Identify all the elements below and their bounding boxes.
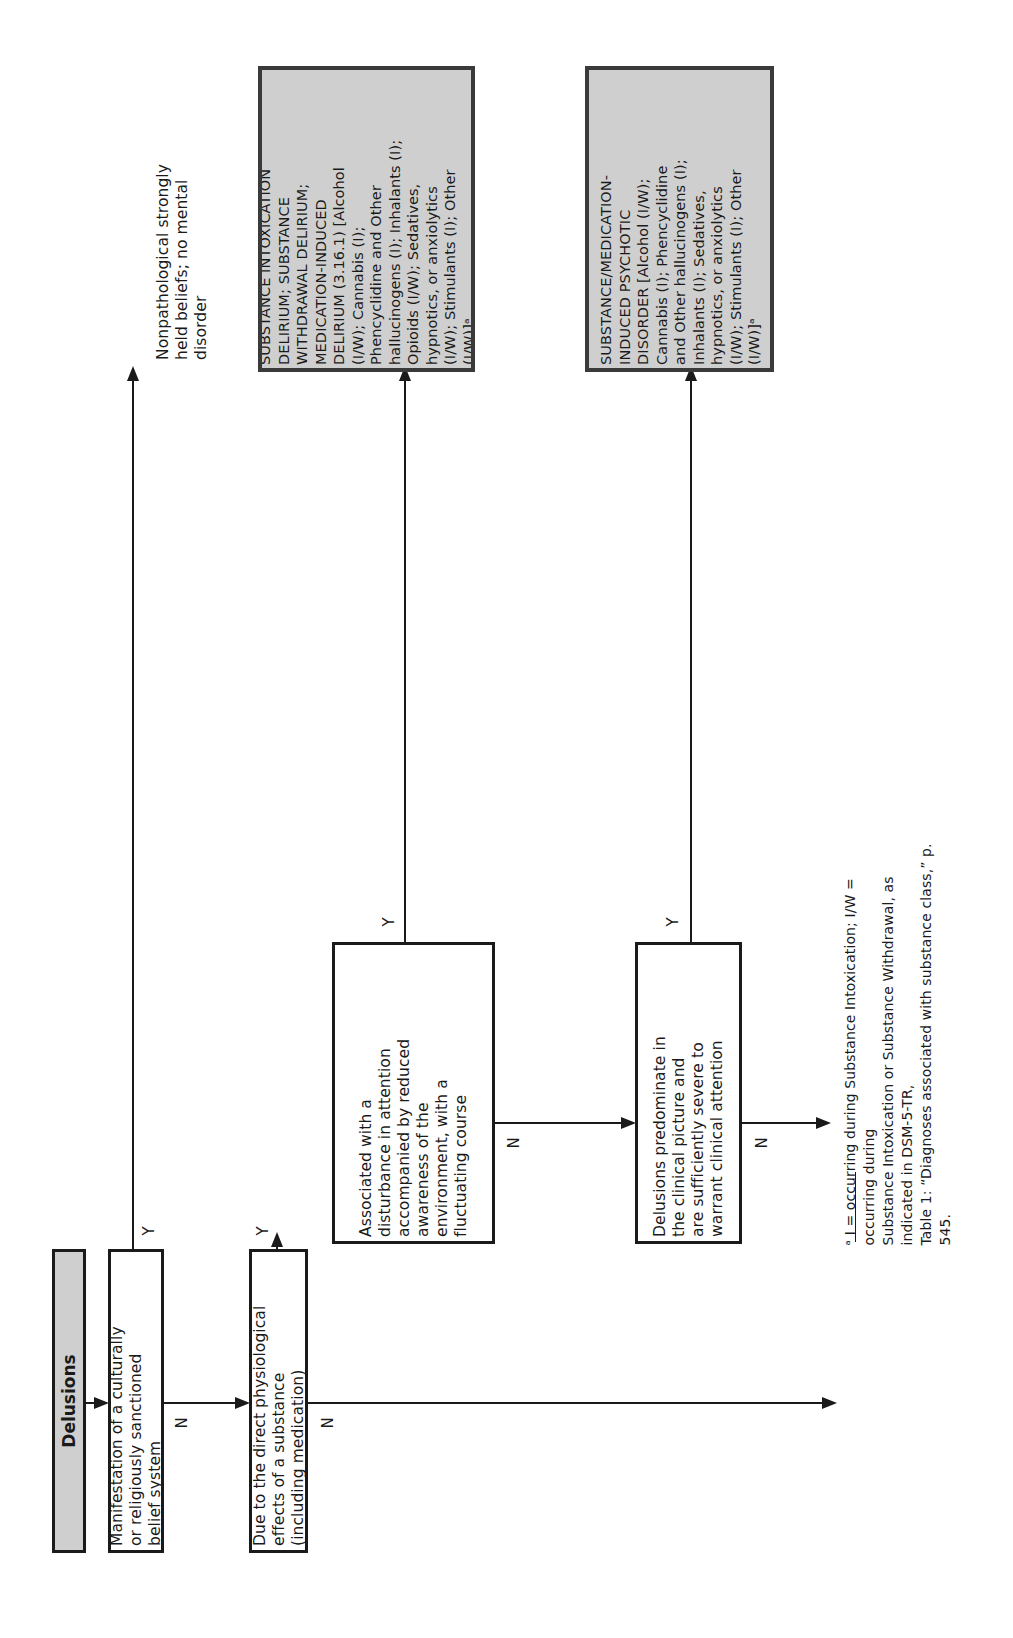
connector-cultural-yes (132, 376, 134, 1249)
connector-predominate-no (742, 1122, 822, 1124)
connector-cultural-no (164, 1402, 242, 1404)
footnote: ᵃ I = occurring during Substance Intoxic… (862, 820, 934, 1245)
start-node-delusions: Delusions (52, 1249, 86, 1553)
outcome-nonpathological-text: Nonpathological strongly held beliefs; n… (154, 60, 211, 360)
outcome-psychotic: SUBSTANCE/MEDICATION- INDUCED PSYCHOTIC … (585, 66, 774, 372)
arrowhead-icon (621, 1117, 636, 1129)
decision-predominate: Delusions predominate in the clinical pi… (635, 942, 742, 1244)
label-substance-no: N (319, 1417, 337, 1428)
outcome-delirium-text: SUBSTANCE INTOXICATION DELIRIUM; SUBSTAN… (258, 73, 475, 365)
label-substance-yes: Y (254, 1226, 272, 1235)
connector-predominate-yes (690, 376, 692, 942)
footnote-text: ᵃ I = occurring during Substance Intoxic… (841, 820, 955, 1245)
connector-attention-no (495, 1122, 627, 1124)
outcome-psychotic-text: SUBSTANCE/MEDICATION- INDUCED PSYCHOTIC … (596, 73, 763, 365)
arrowhead-icon (127, 366, 139, 381)
arrowhead-icon (94, 1397, 109, 1409)
label-attention-yes: Y (380, 917, 398, 926)
outcome-nonpathological: Nonpathological strongly held beliefs; n… (156, 60, 208, 360)
label-predominate-yes: Y (664, 917, 682, 926)
decision-cultural-text: Manifestation of a culturally or religio… (108, 1256, 164, 1546)
arrowhead-icon (822, 1397, 837, 1409)
label-attention-no: N (505, 1137, 523, 1148)
decision-substance: Due to the direct physiological effects … (249, 1249, 308, 1553)
outcome-delirium: SUBSTANCE INTOXICATION DELIRIUM; SUBSTAN… (258, 66, 475, 372)
decision-predominate-text: Delusions predominate in the clinical pi… (651, 949, 727, 1237)
start-node-label: Delusions (59, 1354, 79, 1447)
arrowhead-icon (235, 1397, 250, 1409)
connector-attention-yes (404, 376, 406, 942)
label-cultural-yes: Y (140, 1226, 158, 1235)
decision-attention: Associated with a disturbance in attenti… (332, 942, 495, 1244)
label-predominate-no: N (753, 1137, 771, 1148)
arrowhead-icon (816, 1117, 831, 1129)
decision-substance-text: Due to the direct physiological effects … (250, 1256, 307, 1546)
decision-cultural: Manifestation of a culturally or religio… (108, 1249, 164, 1553)
arrowhead-icon (271, 1232, 283, 1247)
label-cultural-no: N (173, 1417, 191, 1428)
decision-attention-text: Associated with a disturbance in attenti… (357, 949, 471, 1237)
connector-substance-no (308, 1402, 828, 1404)
